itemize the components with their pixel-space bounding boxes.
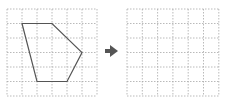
right-grid xyxy=(127,9,219,96)
diagram-canvas xyxy=(0,0,230,102)
left-grid xyxy=(7,9,97,96)
right-arrow-icon xyxy=(105,45,118,57)
